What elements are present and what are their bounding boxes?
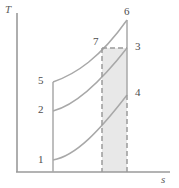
x-axis-label: s	[161, 174, 165, 185]
y-axis-label: T	[5, 4, 11, 15]
state-point-label-1: 1	[38, 154, 44, 165]
state-point-label-6: 6	[124, 6, 130, 17]
diagram-canvas	[0, 0, 179, 188]
state-point-label-5: 5	[38, 75, 44, 86]
state-point-label-7: 7	[93, 36, 99, 47]
state-point-label-2: 2	[38, 104, 44, 115]
state-point-label-4: 4	[135, 87, 141, 98]
ts-diagram-figure: T s 1 2 3 4 5 6 7	[0, 0, 179, 188]
state-point-label-3: 3	[135, 41, 141, 52]
